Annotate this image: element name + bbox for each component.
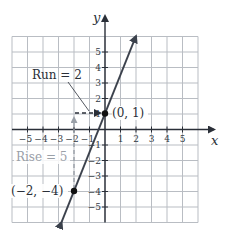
y-tick-label: 3	[95, 78, 101, 88]
run-leader-line	[68, 82, 89, 111]
y-tick-label: 4	[95, 63, 101, 73]
x-tick-label: −4	[34, 134, 48, 144]
x-tick-label: 4	[164, 134, 170, 144]
point-label-0-1: (0, 1)	[112, 106, 144, 120]
x-tick-label: −3	[50, 134, 64, 144]
point-label-neg2-neg4: (−2, −4)	[11, 184, 63, 198]
y-tick-label: −3	[88, 171, 102, 181]
y-tick-label: 5	[95, 47, 101, 57]
graph-plot: −5−4−3−2−112345−5−4−3−2−112345 y x Run =…	[0, 0, 226, 240]
x-tick-label: 2	[133, 134, 139, 144]
y-tick-label: −5	[88, 202, 102, 212]
rise-label: Rise = 5	[16, 150, 67, 164]
x-axis-label: x	[211, 133, 219, 148]
x-tick-label: −2	[65, 134, 78, 144]
point-neg2-neg4	[71, 188, 77, 194]
y-tick-label: −2	[88, 156, 101, 166]
y-tick-label: 1	[95, 109, 101, 119]
point-0-1	[102, 110, 108, 116]
y-tick-label: −4	[88, 187, 102, 197]
x-tick-label: 1	[118, 134, 124, 144]
run-label: Run = 2	[32, 68, 82, 82]
y-axis-label: y	[92, 10, 101, 25]
y-tick-label: 2	[95, 94, 101, 104]
x-tick-label: 3	[149, 134, 155, 144]
x-tick-label: 5	[180, 134, 186, 144]
x-tick-label: −5	[19, 134, 33, 144]
